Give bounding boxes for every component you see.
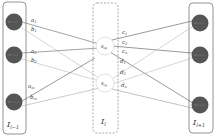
svg-text:vl−1,m: vl−1,m <box>8 99 20 104</box>
middle-nodes: sip siq <box>96 37 114 92</box>
left-layer-label: Il−1 <box>6 120 19 130</box>
svg-text:d1: d1 <box>120 58 126 65</box>
svg-text:vl+1,1: vl+1,1 <box>194 20 205 25</box>
svg-text:vl−1,1: vl−1,1 <box>8 19 19 24</box>
right-layer-label: Il+1 <box>192 118 205 128</box>
middle-layer-label: Il <box>100 117 106 127</box>
svg-text:b2: b2 <box>31 57 38 64</box>
svg-text:c1: c1 <box>122 29 127 36</box>
svg-text:a1: a1 <box>31 17 37 24</box>
svg-text:dn: dn <box>121 82 128 89</box>
middle-layer-box <box>93 3 118 133</box>
svg-text:a2: a2 <box>31 48 37 55</box>
right-nodes: vl+1,1 vl+1,2 vl+1,n <box>192 15 209 114</box>
edge-labels-left: a1 b1 a2 b2 am bm <box>28 17 38 101</box>
svg-text:bm: bm <box>30 94 38 101</box>
svg-text:c2: c2 <box>122 39 128 46</box>
layer-diagram: sip siq vl−1,1 vl−1,2 vl−1,m vl+1,1 vl+1… <box>0 0 216 136</box>
svg-text:vl+1,2: vl+1,2 <box>194 52 205 57</box>
svg-text:vl+1,n: vl+1,n <box>194 102 205 107</box>
svg-text:vl−1,2: vl−1,2 <box>8 52 19 57</box>
left-nodes: vl−1,1 vl−1,2 vl−1,m <box>6 14 23 111</box>
svg-text:am: am <box>28 83 35 90</box>
svg-text:b1: b1 <box>31 26 37 33</box>
edges-left <box>22 22 110 106</box>
svg-text:cn: cn <box>122 48 128 55</box>
